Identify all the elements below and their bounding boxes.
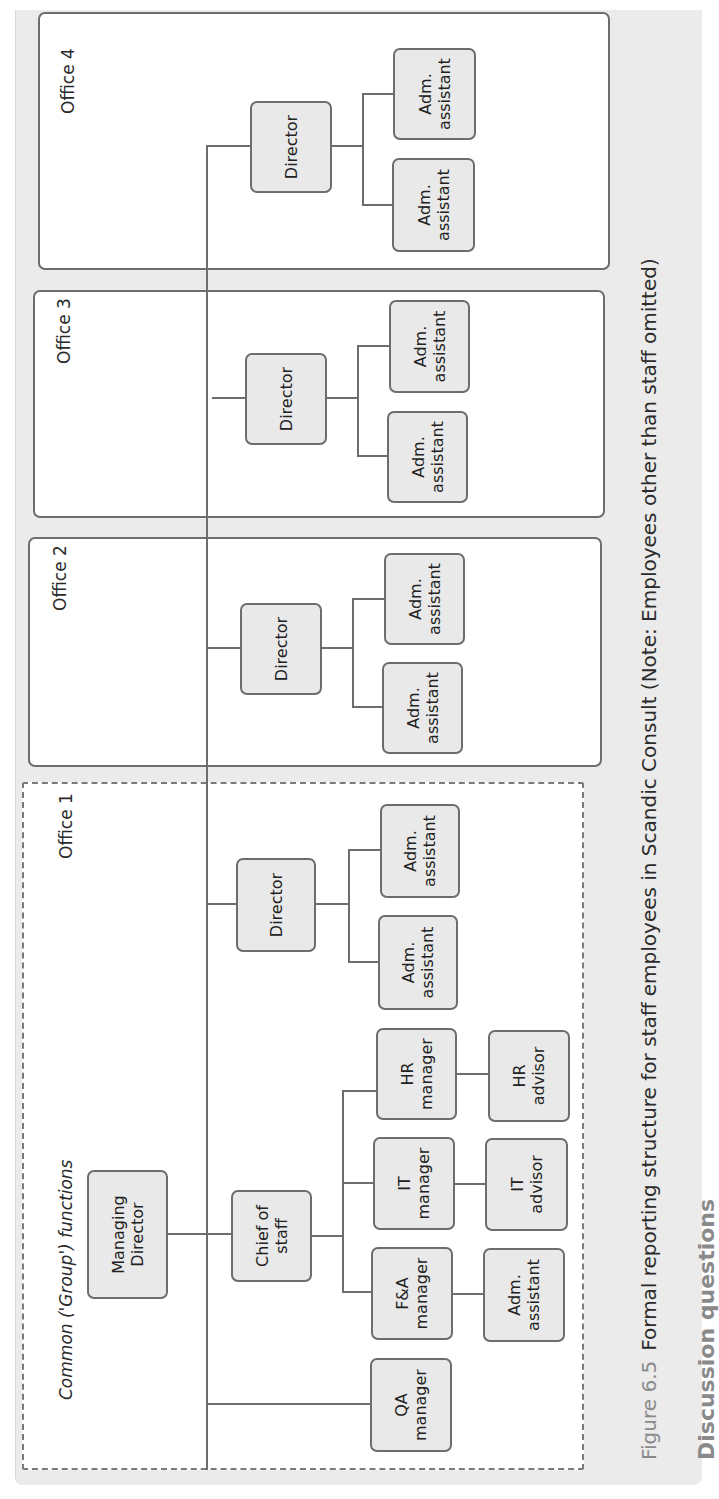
node-hr-advisor: HR advisor <box>488 1030 570 1122</box>
office-1-asst-a-stem <box>348 961 378 963</box>
node-managing-director: Managing Director <box>87 1170 168 1299</box>
node-office-3-director: Director <box>245 353 327 445</box>
office-4-director-connector <box>206 145 250 147</box>
office-2-label: Office 2 <box>50 545 70 611</box>
node-office-2-assistant: Adm. assistant <box>384 553 465 645</box>
hr-advisor-connector <box>457 1073 488 1075</box>
office-2-asst-a-stem <box>352 706 382 708</box>
office-1-director-stem <box>316 903 348 905</box>
node-qa-manager: QA manager <box>370 1358 452 1452</box>
node-office-1-assistant: Adm. assistant <box>378 915 458 1010</box>
office-1-asst-b-stem <box>348 849 380 851</box>
office-3-asst-b-stem <box>357 345 389 347</box>
node-office-4-assistant: Adm. assistant <box>392 158 475 252</box>
node-office-2-director: Director <box>240 603 322 695</box>
office-4-asst-b-stem <box>362 93 393 95</box>
node-it-advisor: IT advisor <box>485 1138 568 1231</box>
node-office-4-assistant: Adm. assistant <box>393 48 476 140</box>
node-office-3-assistant: Adm. assistant <box>387 411 468 503</box>
node-hr-manager: HR manager <box>376 1028 457 1120</box>
office-1-bracket <box>348 849 350 963</box>
office-2-director-connector <box>208 647 240 649</box>
office-2-bracket <box>352 598 354 708</box>
fa-assistant-connector <box>453 1293 483 1295</box>
node-fa-manager: F&A manager <box>371 1247 453 1340</box>
office-3-label: Office 3 <box>54 298 74 364</box>
office-3-director-connector <box>212 397 245 399</box>
figure-caption: Figure 6.5Formal reporting structure for… <box>637 258 661 1460</box>
office-4-asst-a-stem <box>362 204 392 206</box>
chief-stem <box>312 1235 342 1237</box>
md-connector <box>168 1233 232 1235</box>
chief-bracket <box>342 1090 344 1293</box>
node-office-1-assistant: Adm. assistant <box>380 804 460 898</box>
node-fa-assistant: Adm. assistant <box>483 1248 565 1342</box>
node-office-2-assistant: Adm. assistant <box>382 662 463 754</box>
office-1-label: Office 1 <box>56 793 76 859</box>
node-it-manager: IT manager <box>373 1137 455 1230</box>
trunk-line-horizontal <box>206 145 208 1470</box>
office-4-label: Office 4 <box>58 48 78 114</box>
figure-caption-text: Formal reporting structure for staff emp… <box>637 258 661 1351</box>
office-3-asst-a-stem <box>357 455 387 457</box>
node-office-3-assistant: Adm. assistant <box>389 300 470 393</box>
node-office-4-director: Director <box>250 101 332 193</box>
it-advisor-connector <box>455 1183 485 1185</box>
office-4-bracket <box>362 93 364 206</box>
discussion-heading: Discussion questions <box>694 1199 719 1460</box>
figure-number: Figure 6.5 <box>637 1361 661 1460</box>
office-3-bracket <box>357 345 359 457</box>
office-4-director-stem <box>332 145 362 147</box>
node-chief-of-staff: Chief of staff <box>231 1190 312 1282</box>
qa-stem <box>206 1403 370 1405</box>
office-3-director-stem <box>327 397 357 399</box>
it-stem <box>342 1182 373 1184</box>
office-2-director-stem <box>322 647 352 649</box>
fa-stem <box>342 1291 371 1293</box>
node-office-1-director: Director <box>236 858 316 952</box>
office-1-director-connector <box>206 903 236 905</box>
common-functions-label: Common ('Group') functions <box>56 1160 76 1400</box>
office-2-asst-b-stem <box>352 598 384 600</box>
hr-stem <box>342 1090 376 1092</box>
